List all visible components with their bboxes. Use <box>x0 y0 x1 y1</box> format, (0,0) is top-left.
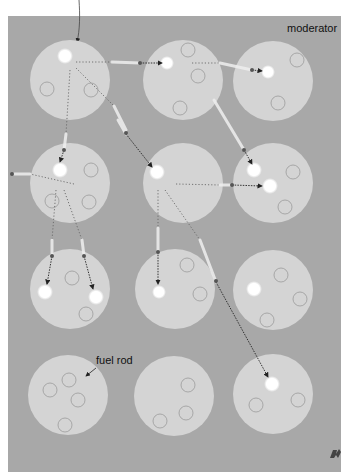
fuel-rod-r4c3 <box>233 354 313 434</box>
chain-reaction-diagram <box>0 0 348 472</box>
fuel-rod-label: fuel rod <box>96 354 133 366</box>
fuel-rod-r4c1 <box>28 355 108 435</box>
fuel-rod-r3c1 <box>30 249 110 329</box>
fuel-rod-r2c3 <box>233 143 313 223</box>
moderator-label: moderator <box>287 22 337 34</box>
fuel-rod-r1c3 <box>233 41 313 121</box>
fuel-rod-r3c3 <box>233 250 313 330</box>
fuel-rod-r1c1 <box>30 40 110 120</box>
fuel-rod-r3c2 <box>135 249 215 329</box>
fuel-rod-r2c2 <box>143 143 223 223</box>
fuel-rod-r4c2 <box>134 356 214 436</box>
fuel-rod-r1c2 <box>143 40 223 120</box>
